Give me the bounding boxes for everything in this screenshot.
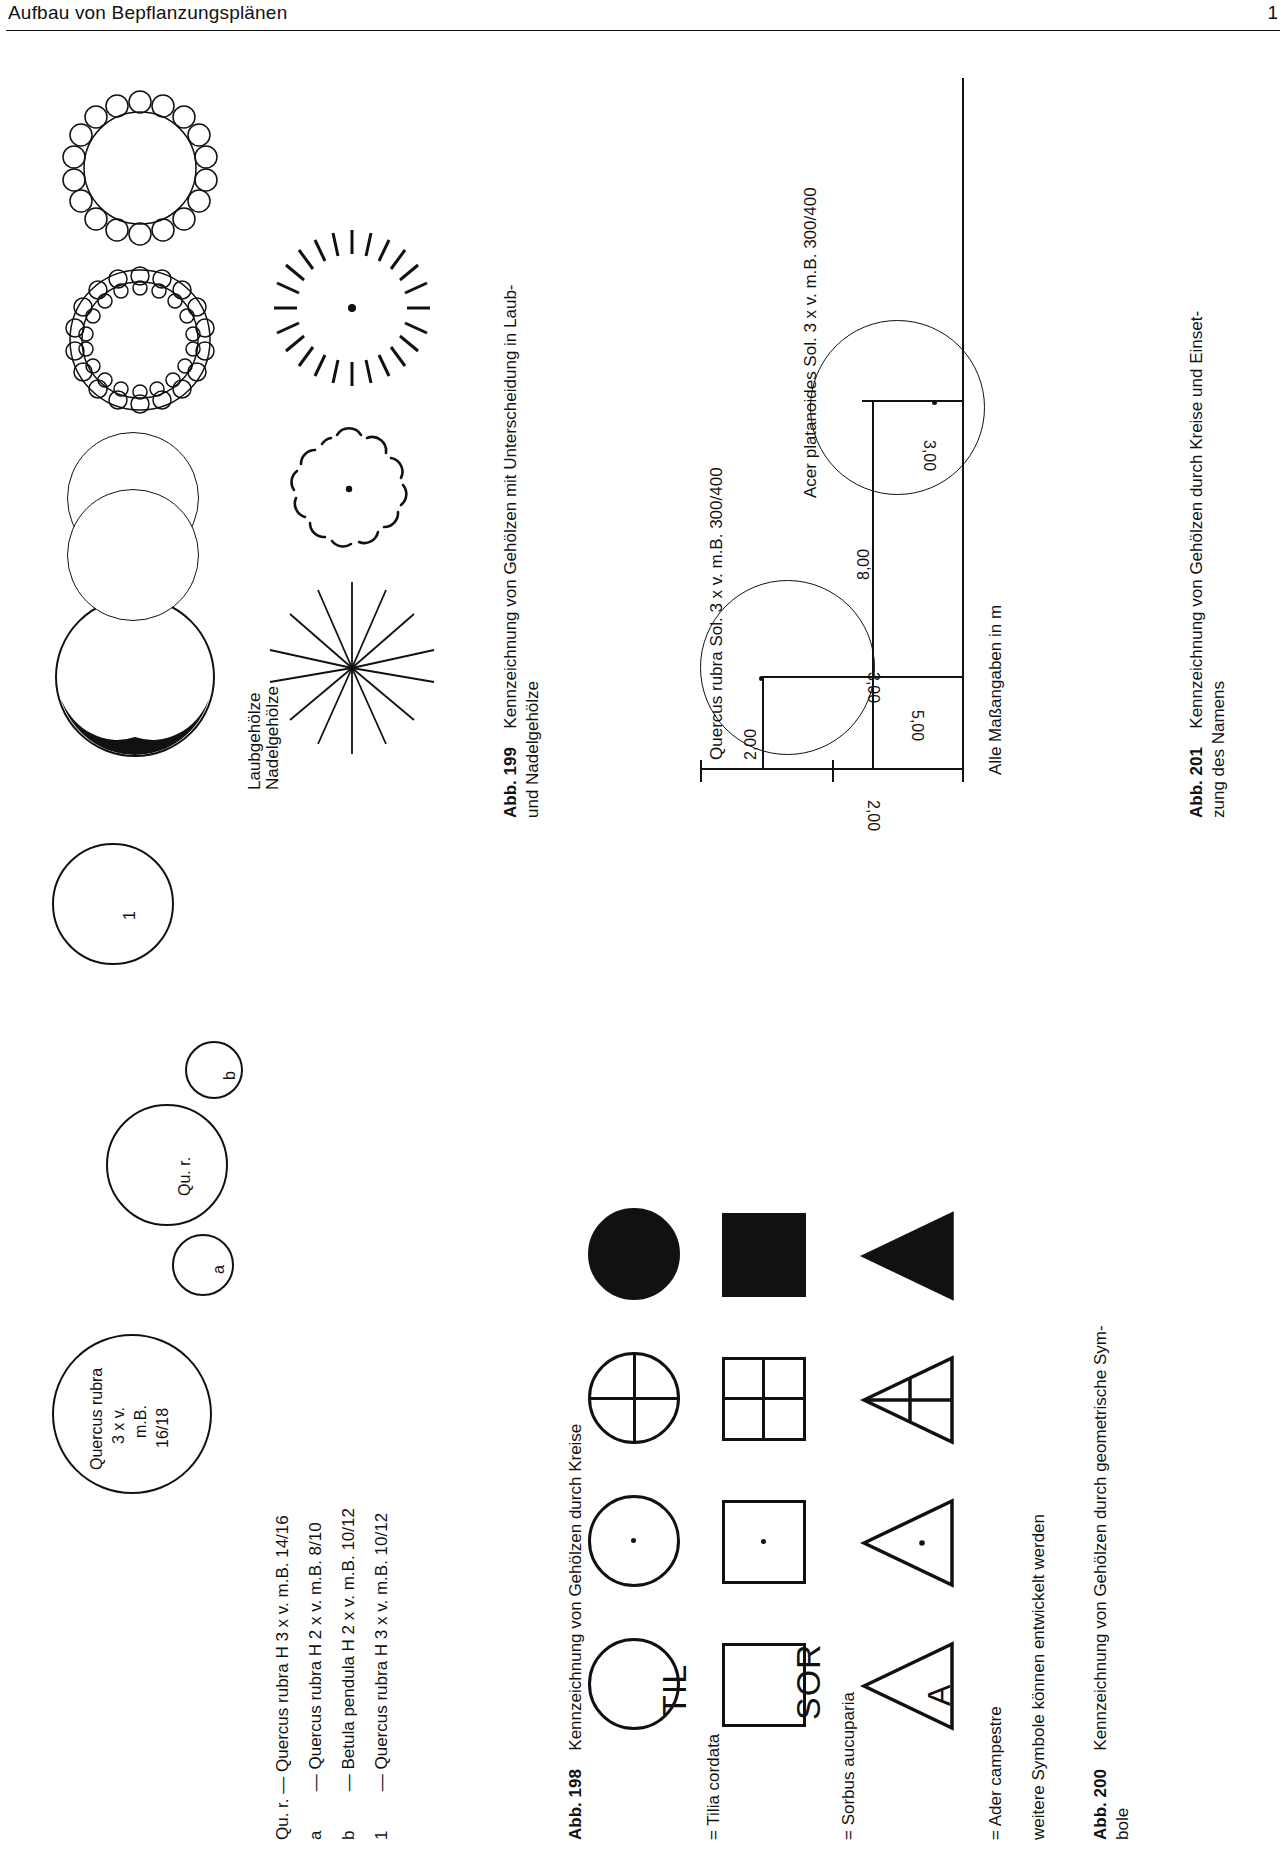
abb199-laub-scalloped-ring-single [60, 88, 220, 248]
abb199-laub-circle-overlap-2 [67, 489, 199, 621]
abb201-note: Alle Maßangaben in m [985, 605, 1008, 775]
abb199-nadel-tick-ring [272, 228, 432, 388]
abb201-circle-acer [810, 320, 985, 495]
abb201-dimline-3-00-acer [872, 400, 964, 402]
header-rule [6, 30, 1280, 31]
abb200-square-quartered-hline [722, 1397, 806, 1400]
abb199-caption-line1: Abb. 199 Kennzeichnung von Gehölzen mit … [500, 284, 523, 818]
abb198-caption: Abb. 198 Kennzeichnung von Gehölzen durc… [565, 1424, 588, 1840]
page-header: Aufbau von Bepflanzungsplänen 1 [0, 0, 1286, 34]
abb198-circle-one [52, 843, 174, 965]
page-number: 1 [1267, 2, 1278, 24]
abb198-legend-text-2: Betula pendula H 2 x v. m.B. 10/12 [339, 1508, 358, 1769]
abb198-legend-line-0: Qu. r. — Quercus rubra H 3 x v. m.B. 14/… [272, 1515, 295, 1840]
abb198-legend-line-3: 1 — Quercus rubra H 3 x v. m.B. 10/12 [371, 1513, 394, 1840]
abb198-label-b: b [219, 1071, 241, 1080]
abb198-legend-dash-1: — [306, 1774, 325, 1791]
abb200-symbol-text-sor: SOR [786, 1643, 832, 1720]
abb198-legend-key-0: Qu. r. [273, 1798, 292, 1840]
document-page: Aufbau von Bepflanzungsplänen 1 Quercus … [0, 0, 1286, 1855]
abb200-square-dot-center [761, 1539, 766, 1544]
abb199-nadel-star-burst [262, 578, 442, 758]
abb198-legend-dash-3: — [372, 1774, 391, 1791]
abb199-caption-line2: und Nadelgehölze [522, 681, 545, 818]
abb200-caption-text-1: Kennzeichnung von Gehölzen durch geometr… [1091, 1325, 1110, 1750]
abb198-main-label-line4: 16/18 [152, 1408, 174, 1448]
abb201-dimension-3-00-acer: 3,00 [918, 440, 940, 471]
page-title: Aufbau von Bepflanzungsplänen [8, 2, 287, 24]
abb201-species-label-quercus: Quercus rubra Sol. 3 x v. m.B. 300/400 [706, 467, 729, 760]
abb199-laub-scalloped-ring-double [55, 255, 225, 425]
abb198-circle-b [185, 1041, 243, 1099]
abb200-triangle-quartered [860, 1352, 956, 1448]
abb200-note: weitere Symbole können entwickelt werden [1028, 1514, 1051, 1840]
abb199-laub-crescent-shape [55, 597, 215, 757]
abb200-symbol-text-a: A [918, 1685, 961, 1706]
abb199-group-label-nadel: Nadelgehölze [262, 686, 285, 790]
abb201-baseline-tick-3 [962, 760, 964, 782]
abb198-legend-text-3: Quercus rubra H 3 x v. m.B. 10/12 [372, 1513, 391, 1770]
abb200-equals-ader: = Ader campestre [985, 1706, 1008, 1840]
abb201-dimline-8-00 [872, 400, 874, 768]
abb199-caption-text-1: Kennzeichnung von Gehölzen mit Untersche… [501, 284, 520, 728]
abb198-legend-key-1: a [305, 1796, 328, 1840]
abb201-species-label-acer: Acer platanoides Sol. 3 x v. m.B. 300/40… [800, 187, 823, 498]
abb201-caption-text-1: Kennzeichnung von Gehölzen durch Kreise … [1187, 311, 1206, 729]
abb201-dimline-2-00 [762, 676, 764, 768]
abb200-equals-tilia: = Tilia cordata [703, 1734, 726, 1840]
abb200-circle-dot-center [631, 1538, 636, 1543]
abb201-dimension-8-00: 8,00 [853, 549, 875, 580]
abb200-triangle-dot [860, 1495, 956, 1591]
abb201-dimension-2-00: 2,00 [740, 729, 762, 760]
abb198-legend-text-1: Quercus rubra H 2 x v. m.B. 8/10 [306, 1522, 325, 1769]
abb198-label-one: 1 [119, 911, 141, 920]
abb198-legend-key-3: 1 [371, 1796, 394, 1840]
abb200-caption-line1: Abb. 200 Kennzeichnung von Gehölzen durc… [1090, 1325, 1113, 1840]
abb198-caption-text: Kennzeichnung von Gehölzen durch Kreise [566, 1424, 585, 1751]
abb200-caption-number: Abb. 200 [1091, 1769, 1110, 1840]
abb198-main-label-line1: Quercus rubra [86, 1368, 108, 1470]
abb198-legend-dash-0: — [273, 1777, 292, 1794]
abb198-main-label-line2: 3 x v. [108, 1407, 130, 1444]
abb198-legend-dash-2: — [339, 1774, 358, 1791]
abb199-caption-number: Abb. 199 [501, 747, 520, 818]
abb200-equals-sorbus: = Sorbus aucuparia [838, 1692, 861, 1840]
abb200-triangle-filled [860, 1208, 956, 1304]
abb201-caption-line2: zung des Namens [1208, 681, 1231, 818]
abb200-circle-quartered-hline [588, 1397, 680, 1400]
abb201-caption-line1: Abb. 201 Kennzeichnung von Gehölzen durc… [1186, 311, 1209, 818]
abb200-circle-filled [588, 1208, 680, 1300]
abb200-symbol-text-til: TIL [652, 1664, 698, 1716]
abb198-legend-key-2: b [338, 1796, 361, 1840]
abb201-caption-number: Abb. 201 [1187, 747, 1206, 818]
abb201-dimension-5-00: 5,00 [906, 710, 928, 741]
abb201-baseline-tick-1 [700, 760, 702, 782]
abb198-circle-qu-r [106, 1104, 228, 1226]
abb198-label-qu-r: Qu. r. [174, 1157, 196, 1196]
abb201-baseline-tick-2 [832, 760, 834, 782]
abb198-legend-line-1: a — Quercus rubra H 2 x v. m.B. 8/10 [305, 1522, 328, 1840]
abb198-legend-line-2: b — Betula pendula H 2 x v. m.B. 10/12 [338, 1508, 361, 1840]
abb201-axis-vertical-right [962, 78, 964, 770]
abb198-caption-number: Abb. 198 [566, 1769, 585, 1840]
abb200-square-filled [722, 1213, 806, 1297]
abb198-legend-text-0: Quercus rubra H 3 x v. m.B. 14/16 [273, 1515, 292, 1772]
abb198-main-label-line3: m.B. [130, 1405, 152, 1438]
abb201-dimension-2-00-base: 2,00 [862, 800, 884, 831]
abb201-dimension-3-00-base: 3,00 [862, 672, 884, 703]
abb198-label-a: a [208, 1265, 230, 1274]
abb199-nadel-dashed-scallop [285, 425, 413, 553]
abb200-caption-line2: bole [1112, 1808, 1135, 1840]
